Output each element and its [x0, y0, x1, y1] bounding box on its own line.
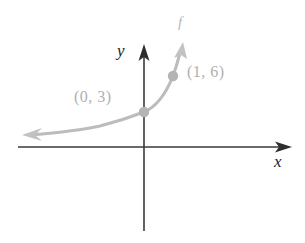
point-dot-y-intercept	[139, 107, 149, 117]
point-dot-second	[168, 71, 178, 81]
graph-figure: y x f (0, 3) (1, 6)	[0, 0, 305, 243]
y-axis-label: y	[117, 41, 125, 61]
x-axis-label: x	[274, 152, 282, 172]
coordinate-plane-svg	[0, 0, 305, 243]
point-label-second: (1, 6)	[187, 63, 225, 81]
point-label-y-intercept: (0, 3)	[74, 88, 112, 106]
curve-function-label: f	[178, 14, 182, 31]
